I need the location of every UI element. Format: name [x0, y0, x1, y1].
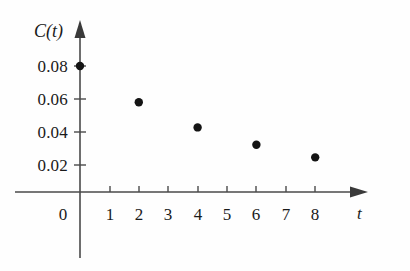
x-tick-label-5: 5 — [216, 206, 238, 223]
x-axis-arrow-icon — [350, 187, 368, 198]
y-tick-label-0.02: 0.02 — [28, 157, 68, 174]
x-tick-label-3: 3 — [157, 206, 179, 223]
y-axis-title: C(t) — [34, 22, 63, 40]
x-tick-label-2: 2 — [128, 206, 150, 223]
x-tick-label-1: 1 — [99, 206, 121, 223]
data-point — [76, 62, 84, 70]
data-point-series — [76, 62, 320, 162]
x-tick-label-6: 6 — [245, 206, 267, 223]
y-tick-label-0.06: 0.06 — [28, 91, 68, 108]
scatter-plot-figure: C(t) t 0.08 0.06 0.04 0.02 0 1 2 3 4 5 6… — [0, 0, 410, 271]
x-axis-ticks — [110, 186, 315, 192]
x-tick-label-8: 8 — [304, 206, 326, 223]
x-axis-title: t — [357, 205, 362, 222]
x-tick-label-7: 7 — [275, 206, 297, 223]
data-point — [135, 98, 143, 106]
y-tick-label-0.08: 0.08 — [28, 58, 68, 75]
y-axis-arrow-icon — [75, 20, 86, 38]
y-tick-label-0.04: 0.04 — [28, 124, 68, 141]
data-point — [311, 153, 319, 161]
data-point — [252, 141, 260, 149]
x-tick-label-4: 4 — [187, 206, 209, 223]
data-point — [193, 123, 201, 131]
origin-label: 0 — [52, 206, 74, 223]
